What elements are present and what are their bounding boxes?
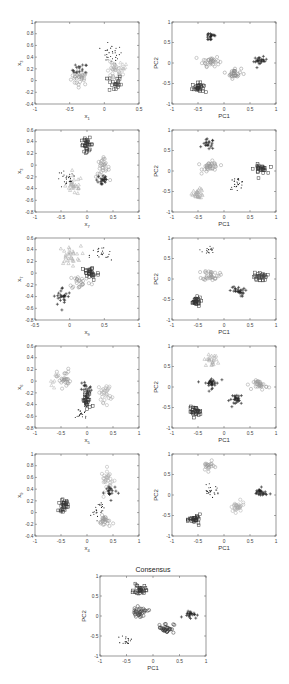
- y-axis-label: PC2: [153, 381, 159, 393]
- scatter-panel-p8: -1-0.500.51-1-0.500.51PC1PC2: [153, 344, 278, 443]
- svg-text:-1: -1: [33, 215, 38, 220]
- svg-text:0: 0: [223, 107, 226, 112]
- svg-text:0: 0: [31, 271, 34, 276]
- svg-text:0: 0: [103, 107, 106, 112]
- svg-text:0: 0: [168, 277, 171, 282]
- svg-text:-0.8: -0.8: [25, 210, 34, 215]
- y-axis-label: PC2: [153, 489, 159, 501]
- cluster-plus: [254, 486, 271, 497]
- cluster-circle: [55, 367, 72, 390]
- svg-text:0: 0: [31, 510, 34, 515]
- svg-text:0.5: 0.5: [176, 659, 183, 664]
- svg-text:1: 1: [138, 539, 141, 544]
- svg-text:0.4: 0.4: [27, 55, 34, 60]
- cluster-square: [253, 271, 270, 282]
- data-points: [191, 246, 269, 308]
- svg-text:-0.2: -0.2: [25, 175, 34, 180]
- svg-text:0.5: 0.5: [164, 40, 171, 45]
- cluster-plus: [197, 377, 223, 392]
- cluster-plus: [229, 285, 248, 297]
- x-axis-label: x9: [84, 329, 90, 337]
- svg-text:-0.5: -0.5: [162, 405, 171, 410]
- x-axis-label: x1: [84, 113, 90, 121]
- svg-text:-0.5: -0.5: [194, 215, 203, 220]
- svg-text:1: 1: [205, 659, 208, 664]
- data-points: [190, 137, 272, 199]
- svg-text:0.5: 0.5: [110, 215, 117, 220]
- svg-text:0: 0: [168, 385, 171, 390]
- svg-text:-0.5: -0.5: [162, 189, 171, 194]
- cluster-plus: [180, 610, 199, 620]
- data-points: [69, 42, 127, 91]
- svg-text:-0.8: -0.8: [25, 426, 34, 431]
- x-axis-label: x5: [84, 437, 90, 445]
- svg-text:1: 1: [138, 215, 141, 220]
- cluster-circle: [98, 513, 114, 527]
- x-axis-ticks: -0.500.51: [31, 238, 141, 328]
- svg-text:-0.8: -0.8: [25, 318, 34, 323]
- cluster-circle: [97, 385, 114, 407]
- svg-text:0.2: 0.2: [27, 499, 34, 504]
- cluster-square: [186, 513, 201, 527]
- svg-text:0.8: 0.8: [27, 463, 34, 468]
- axes-box: [35, 346, 139, 428]
- cluster-square: [81, 136, 94, 155]
- svg-text:1: 1: [31, 20, 34, 25]
- svg-text:-1: -1: [170, 323, 175, 328]
- svg-text:1: 1: [168, 20, 171, 25]
- svg-text:1: 1: [168, 452, 171, 457]
- svg-text:0: 0: [168, 169, 171, 174]
- svg-text:-1: -1: [166, 534, 171, 539]
- x-axis-ticks: -1-0.500.51: [170, 346, 278, 436]
- svg-text:0: 0: [31, 379, 34, 384]
- svg-text:-0.6: -0.6: [25, 198, 34, 203]
- figure: -1-0.500.5-0.4-0.200.20.40.60.81x1x3-1-0…: [0, 0, 289, 684]
- svg-text:0: 0: [168, 61, 171, 66]
- cluster-circle: [246, 379, 270, 392]
- svg-text:0.6: 0.6: [27, 43, 34, 48]
- cluster-circle: [195, 55, 222, 68]
- svg-text:1: 1: [96, 574, 99, 579]
- y-axis-label: x7: [16, 276, 24, 282]
- svg-text:-1: -1: [33, 539, 38, 544]
- chart-title: Consensus: [135, 566, 171, 573]
- svg-text:0: 0: [31, 78, 34, 83]
- svg-text:1: 1: [31, 452, 34, 457]
- y-axis-ticks: -0.4-0.200.20.40.60.81: [25, 452, 139, 539]
- cluster-dot: [230, 178, 243, 191]
- figure-canvas: -1-0.500.5-0.4-0.200.20.40.60.81x1x3-1-0…: [0, 0, 289, 684]
- svg-text:-0.5: -0.5: [31, 323, 40, 328]
- x-axis-ticks: -1-0.500.51: [98, 576, 208, 664]
- y-axis-label: PC2: [153, 165, 159, 177]
- svg-text:0.4: 0.4: [27, 355, 34, 360]
- svg-text:-1: -1: [170, 107, 175, 112]
- y-axis-label: x3: [16, 168, 24, 174]
- svg-text:0.5: 0.5: [101, 323, 108, 328]
- svg-text:1: 1: [168, 128, 171, 133]
- svg-text:-1: -1: [94, 654, 99, 659]
- svg-text:0: 0: [31, 163, 34, 168]
- svg-text:1: 1: [168, 236, 171, 241]
- svg-text:1: 1: [275, 431, 278, 436]
- cluster-square: [189, 405, 202, 419]
- svg-text:-0.2: -0.2: [25, 522, 34, 527]
- x-axis-label: PC1: [218, 545, 230, 551]
- cluster-square: [106, 75, 123, 91]
- svg-text:0: 0: [86, 431, 89, 436]
- svg-text:-0.4: -0.4: [25, 186, 34, 191]
- scatter-panel-consensus: Consensus-1-0.500.51-1-0.500.51PC1PC2: [81, 566, 208, 671]
- cluster-square: [82, 267, 100, 282]
- svg-text:-0.2: -0.2: [25, 391, 34, 396]
- x-axis-label: x4: [84, 545, 90, 553]
- svg-text:-0.5: -0.5: [194, 539, 203, 544]
- svg-text:0.5: 0.5: [110, 539, 117, 544]
- svg-text:-1: -1: [33, 107, 38, 112]
- x-axis-ticks: -1-0.500.5: [33, 22, 143, 112]
- svg-text:0.5: 0.5: [247, 107, 254, 112]
- svg-text:-0.5: -0.5: [194, 323, 203, 328]
- scatter-panel-p10: -1-0.500.51-1-0.500.51PC1PC2: [153, 452, 278, 551]
- svg-text:0.8: 0.8: [27, 31, 34, 36]
- svg-text:-0.5: -0.5: [194, 107, 203, 112]
- cluster-dot: [75, 406, 87, 418]
- svg-text:1: 1: [275, 107, 278, 112]
